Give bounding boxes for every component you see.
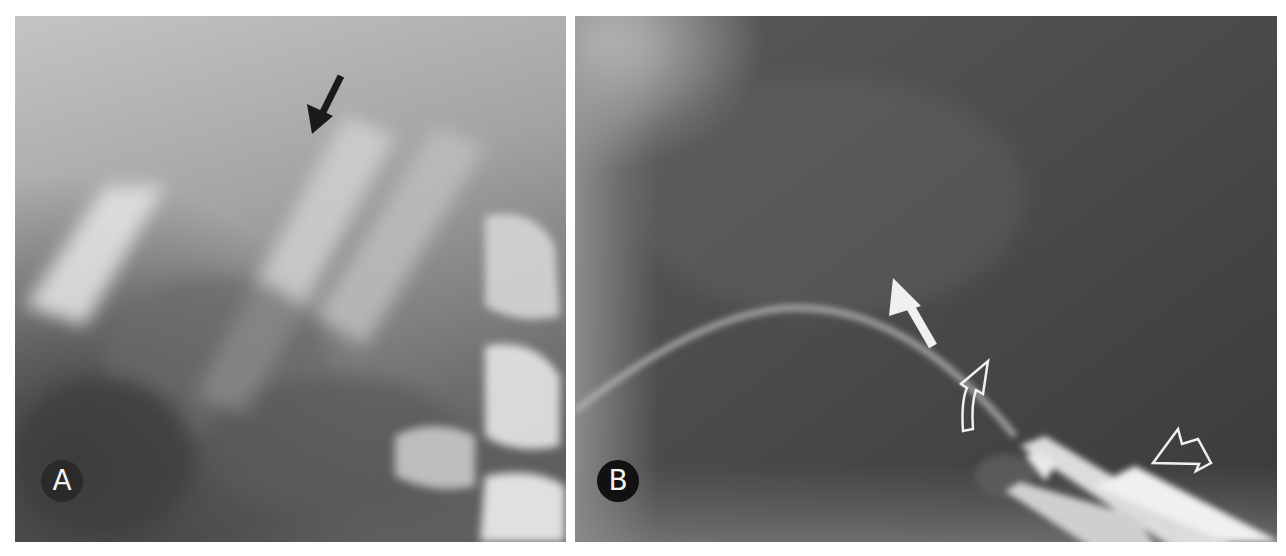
panel-a-radiograph: A bbox=[15, 16, 566, 542]
radiograph-a-image bbox=[15, 16, 566, 542]
radiograph-b-image bbox=[575, 16, 1277, 542]
panel-b-radiograph: B bbox=[575, 16, 1277, 542]
panel-label-b: B bbox=[597, 460, 639, 502]
panel-label-a: A bbox=[41, 460, 83, 502]
